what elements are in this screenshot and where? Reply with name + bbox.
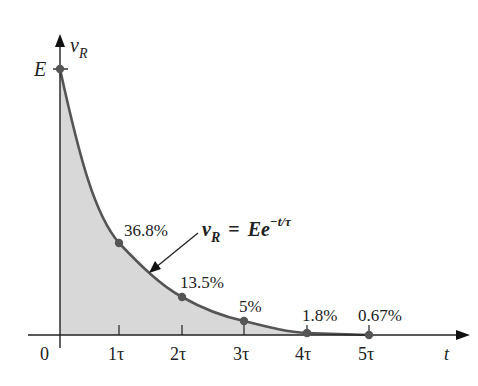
data-point-4tau [303, 329, 311, 337]
data-point-1tau [115, 239, 123, 247]
tick-label-5tau: 5τ [358, 344, 374, 364]
data-point-3tau [240, 317, 248, 325]
tick-label-2tau: 2τ [170, 344, 186, 364]
origin-label: 0 [40, 344, 49, 364]
chart-canvas: vR E 0 t 1τ 2τ 3τ 4τ 5τ 36.8% 13.5% 5% 1… [0, 0, 478, 386]
tick-label-1tau: 1τ [108, 344, 124, 364]
point-label-2tau: 13.5% [180, 273, 224, 292]
data-point-0 [56, 65, 64, 73]
x-axis-label: t [444, 344, 450, 364]
annotation-arrow-icon [149, 261, 161, 273]
equation-label: vR=Ee−t/τ [202, 214, 292, 245]
y-axis-label: vR [70, 34, 88, 61]
data-point-2tau [178, 293, 186, 301]
point-label-5tau: 0.67% [358, 306, 402, 325]
tick-label-3tau: 3τ [233, 344, 249, 364]
point-label-1tau: 36.8% [124, 221, 168, 240]
tick-label-4tau: 4τ [295, 344, 311, 364]
data-point-5tau [365, 331, 373, 339]
x-axis-arrow-icon [456, 330, 470, 340]
y-axis-arrow-icon [55, 34, 65, 47]
point-label-4tau: 1.8% [302, 306, 337, 325]
point-label-3tau: 5% [239, 297, 262, 316]
y-max-label: E [33, 58, 46, 80]
curve-fill-area [60, 69, 369, 335]
